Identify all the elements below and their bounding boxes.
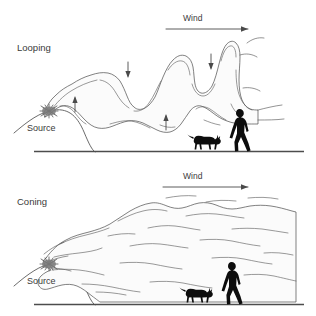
turbulence-arrow-down-1 xyxy=(125,62,130,78)
arrow-down-icon xyxy=(125,71,130,78)
source-label-looping: Source xyxy=(27,123,56,133)
wind-arrow-coning xyxy=(163,184,248,190)
wind-label-coning: Wind xyxy=(183,171,203,181)
wind-label-looping: Wind xyxy=(183,13,203,23)
arrow-right-icon xyxy=(241,184,248,190)
dog-silhouette-icon xyxy=(187,134,221,149)
source-label-coning: Source xyxy=(27,276,56,286)
panel-coning: Wind Coning xyxy=(0,158,316,316)
arrow-right-icon xyxy=(241,26,248,32)
panel-title-looping: Looping xyxy=(17,42,51,53)
turbulence-arrow-down-2 xyxy=(208,54,213,70)
wind-arrow-looping xyxy=(166,26,248,32)
plume-shape-coning xyxy=(38,203,296,302)
diagram-canvas: Wind Looping xyxy=(0,0,316,316)
arrow-down-icon xyxy=(208,63,213,70)
panel-looping: Wind Looping xyxy=(0,0,316,158)
panel-title-coning: Coning xyxy=(17,196,47,207)
